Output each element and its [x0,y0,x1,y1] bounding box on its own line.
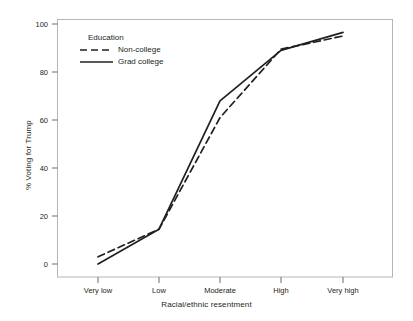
line-chart-plot [0,0,413,321]
x-tick-label-low: Low [124,286,194,295]
x-tick-label-moderate: Moderate [185,286,255,295]
y-tick-label-20: 20 [26,212,48,221]
y-tick-label-80: 80 [26,68,48,77]
legend-label-non-college: Non-college [118,45,161,54]
x-axis-ticks [98,277,343,283]
y-axis-title: % Voting for Trump [24,120,33,190]
x-tick-label-very-high: Very high [308,286,378,295]
y-tick-label-0: 0 [26,260,48,269]
series-line-non-college [98,36,343,257]
y-tick-label-100: 100 [26,20,48,29]
x-tick-label-very-low: Very low [63,286,133,295]
series-line-grad-college [98,32,343,264]
y-axis-ticks [52,24,58,264]
plot-frame [58,20,393,278]
x-tick-label-high: High [246,286,316,295]
x-axis-title: Racial/ethnic resentment [0,300,413,309]
legend-title: Education [88,33,124,42]
chart-figure: 100 80 60 40 20 0 Very low Low Moderate … [0,0,413,321]
legend-label-grad-college: Grad college [118,57,163,66]
